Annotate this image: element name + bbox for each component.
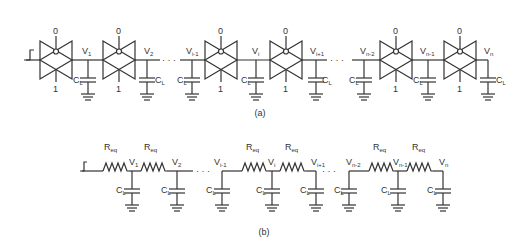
svg-text:CL: CL bbox=[155, 75, 166, 86]
svg-text:Vn-2: Vn-2 bbox=[360, 46, 375, 57]
svg-text:CL: CL bbox=[496, 75, 507, 86]
capacitor-labels: CL CL CL CL CL CL CL CL bbox=[116, 185, 438, 196]
svg-text:Req: Req bbox=[246, 142, 259, 153]
panel-a: · · · · · · 0 1 0 1 0 1 0 1 0 1 0 1 V1 V… bbox=[24, 26, 507, 118]
svg-text:1: 1 bbox=[53, 84, 58, 94]
svg-text:Req: Req bbox=[144, 142, 157, 153]
svg-text:0: 0 bbox=[116, 26, 121, 36]
resistor-labels: Req Req Req Req Req Req bbox=[104, 142, 425, 153]
caption-a: (a) bbox=[255, 108, 266, 118]
svg-text:1: 1 bbox=[283, 84, 288, 94]
svg-text:CL: CL bbox=[116, 185, 127, 196]
svg-text:Vn: Vn bbox=[484, 46, 493, 57]
svg-text:1: 1 bbox=[393, 84, 398, 94]
svg-text:CL: CL bbox=[334, 185, 345, 196]
svg-text:CL: CL bbox=[241, 75, 252, 86]
step-input-icon bbox=[24, 50, 34, 60]
caption-b: (b) bbox=[259, 227, 270, 237]
transmission-gate bbox=[270, 36, 302, 82]
svg-text:Vi-1: Vi-1 bbox=[214, 157, 227, 168]
resistor bbox=[242, 163, 268, 171]
transmission-gate bbox=[103, 36, 135, 82]
svg-text:Req: Req bbox=[285, 142, 298, 153]
svg-text:Vn-2: Vn-2 bbox=[346, 157, 361, 168]
svg-text:Req: Req bbox=[104, 142, 117, 153]
transmission-gate bbox=[380, 36, 412, 82]
svg-text:0: 0 bbox=[283, 26, 288, 36]
svg-text:CL: CL bbox=[206, 185, 217, 196]
circuit-diagram: · · · · · · 0 1 0 1 0 1 0 1 0 1 0 1 V1 V… bbox=[0, 0, 524, 243]
svg-text:Vi+1: Vi+1 bbox=[311, 157, 326, 168]
svg-text:V1: V1 bbox=[82, 46, 92, 57]
svg-text:0: 0 bbox=[457, 26, 462, 36]
svg-text:V2: V2 bbox=[144, 46, 154, 57]
svg-text:CL: CL bbox=[427, 185, 438, 196]
svg-text:CL: CL bbox=[256, 185, 267, 196]
svg-text:Vn-1: Vn-1 bbox=[420, 46, 435, 57]
svg-text:0: 0 bbox=[393, 26, 398, 36]
svg-text:Vn: Vn bbox=[439, 157, 448, 168]
svg-text:1: 1 bbox=[457, 84, 462, 94]
capacitor-labels: CL CL CL CL CL CL CL CL bbox=[73, 75, 507, 86]
svg-text:CL: CL bbox=[73, 75, 84, 86]
ellipsis: · · · bbox=[196, 166, 210, 176]
resistor bbox=[369, 163, 395, 171]
svg-text:1: 1 bbox=[218, 84, 223, 94]
svg-text:V2: V2 bbox=[172, 157, 182, 168]
svg-text:Req: Req bbox=[412, 142, 425, 153]
svg-text:0: 0 bbox=[53, 26, 58, 36]
svg-text:CL: CL bbox=[413, 75, 424, 86]
svg-text:Req: Req bbox=[373, 142, 386, 153]
transmission-gate bbox=[444, 36, 476, 82]
svg-text:V1: V1 bbox=[129, 157, 139, 168]
circuit-figure: · · · · · · 0 1 0 1 0 1 0 1 0 1 0 1 V1 V… bbox=[0, 0, 524, 243]
panel-b: · · · · · · Req Req Req Req Req Req V1 V… bbox=[80, 142, 451, 237]
ellipsis: · · · bbox=[330, 55, 344, 65]
svg-text:Vi+1: Vi+1 bbox=[310, 46, 325, 57]
svg-text:CL: CL bbox=[322, 75, 333, 86]
svg-text:Vi-1: Vi-1 bbox=[186, 46, 199, 57]
resistor bbox=[141, 163, 167, 171]
transmission-gate bbox=[40, 36, 72, 82]
resistor bbox=[407, 163, 433, 171]
svg-text:CL: CL bbox=[177, 75, 188, 86]
svg-text:CL: CL bbox=[161, 185, 172, 196]
svg-text:Vn-1: Vn-1 bbox=[393, 157, 408, 168]
svg-text:CL: CL bbox=[381, 185, 392, 196]
svg-text:CL: CL bbox=[349, 75, 360, 86]
transmission-gate bbox=[205, 36, 237, 82]
svg-text:CL: CL bbox=[300, 185, 311, 196]
svg-text:Vi: Vi bbox=[268, 157, 275, 168]
resistor bbox=[103, 163, 129, 171]
svg-text:Vi: Vi bbox=[252, 46, 259, 57]
ellipsis: · · · bbox=[162, 55, 176, 65]
resistor bbox=[280, 163, 306, 171]
svg-text:0: 0 bbox=[218, 26, 223, 36]
step-input-icon bbox=[80, 162, 87, 171]
svg-text:1: 1 bbox=[116, 84, 121, 94]
